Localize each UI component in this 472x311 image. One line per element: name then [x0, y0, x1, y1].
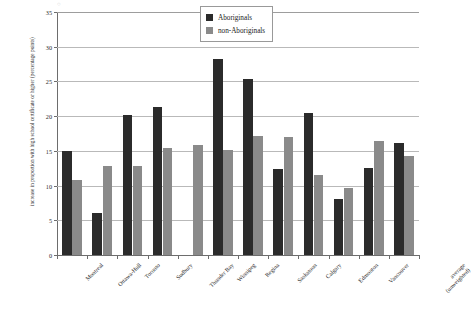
bar: [223, 150, 233, 255]
x-tick-mark: [238, 255, 239, 259]
bar: [344, 188, 354, 255]
y-axis-title: increase in proportion with high school …: [29, 27, 36, 217]
x-tick-label: Regina: [264, 262, 281, 279]
plot-frame: 05101520253035 MontrealOttawa-HullToront…: [57, 12, 419, 255]
x-tick-mark: [57, 255, 58, 259]
bar-group: [208, 12, 238, 255]
bar: [374, 141, 384, 255]
x-tick-mark: [117, 255, 118, 259]
bar-group: [298, 12, 328, 255]
x-tick-mark: [419, 255, 420, 259]
bar: [213, 59, 223, 255]
bar-group: [389, 12, 419, 255]
bar: [284, 137, 294, 255]
bar: [334, 199, 344, 255]
bar-group: [87, 12, 117, 255]
x-tick-label: Vancouver: [387, 262, 410, 285]
bar: [304, 113, 314, 255]
bar: [62, 151, 72, 255]
x-tick-mark: [208, 255, 209, 259]
x-tick-label: Calgary: [325, 262, 344, 281]
bar-group: [117, 12, 147, 255]
x-tick-mark: [329, 255, 330, 259]
bar: [103, 166, 113, 255]
x-tick-label: Winnipeg: [236, 262, 258, 284]
bar-group: [238, 12, 268, 255]
y-tick-label: 35: [46, 9, 52, 16]
bar-group: [178, 12, 208, 255]
x-tick-label: Saskatoon: [296, 262, 319, 285]
y-tick-label: 0: [49, 252, 52, 259]
y-tick-label: 30: [46, 43, 52, 50]
legend-swatch-icon-non-aboriginals: [206, 27, 213, 34]
x-tick-mark: [87, 255, 88, 259]
x-tick-label: average (unweighted): [425, 262, 472, 309]
x-tick-mark: [389, 255, 390, 259]
bar-group: [57, 12, 87, 255]
x-tick-mark: [148, 255, 149, 259]
legend-item-aboriginals: Aboriginals: [206, 11, 265, 24]
x-tick-mark: [298, 255, 299, 259]
bar: [153, 107, 163, 255]
y-tick-label: 10: [46, 182, 52, 189]
bar: [133, 166, 143, 255]
x-tick-label: Thunder Bay: [208, 262, 236, 290]
bar: [394, 143, 404, 255]
x-tick-mark: [178, 255, 179, 259]
bar: [273, 169, 283, 255]
bar: [404, 156, 414, 255]
x-tick-label: Ottawa-Hull: [117, 262, 143, 288]
legend-swatch-icon-aboriginals: [206, 14, 213, 21]
corner-artifact-mark: ○: [57, 1, 61, 7]
bar: [253, 136, 263, 255]
legend-label-aboriginals: Aboriginals: [218, 14, 252, 22]
x-tick-label: Montreal: [85, 262, 106, 283]
bar: [163, 148, 173, 255]
bar: [314, 175, 324, 255]
plot-area: 05101520253035 MontrealOttawa-HullToront…: [57, 12, 419, 255]
x-tick-label: Toronto: [144, 262, 163, 281]
y-tick-label: 5: [49, 217, 52, 224]
bar: [193, 145, 203, 255]
y-tick-label: 15: [46, 147, 52, 154]
bar-group: [268, 12, 298, 255]
bar-group: [359, 12, 389, 255]
x-tick-label: Edmonton: [357, 262, 380, 285]
bar: [243, 79, 253, 255]
legend-item-non-aboriginals: non-Aboriginals: [206, 24, 265, 37]
bar: [364, 168, 374, 255]
bar-group: [329, 12, 359, 255]
x-tick-mark: [359, 255, 360, 259]
x-tick-label: Sudbury: [175, 262, 195, 282]
y-tick-label: 25: [46, 78, 52, 85]
chart-legend: Aboriginals non-Aboriginals: [200, 6, 273, 42]
y-tick-label: 20: [46, 113, 52, 120]
bar: [123, 115, 133, 255]
bar: [72, 180, 82, 255]
bar: [92, 213, 102, 255]
x-tick-mark: [268, 255, 269, 259]
legend-label-non-aboriginals: non-Aboriginals: [218, 27, 265, 35]
bar-group: [148, 12, 178, 255]
